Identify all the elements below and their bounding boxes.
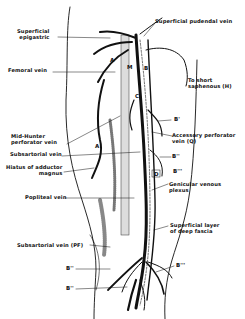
letter-marker: B''' (173, 168, 182, 174)
label-subsartorial-vein-pf: Subsartorial vein (PF) (17, 243, 83, 249)
label-line: of deep fascia (170, 229, 219, 235)
letter-marker: B'' (172, 153, 180, 159)
letter-marker: B (144, 65, 148, 71)
label-line: vein (Q) (172, 139, 235, 145)
label-line: saphenous (H) (188, 84, 232, 90)
label-superficial-pudendal: Superficial pudendal vein (155, 19, 232, 25)
label-line: Popliteal vein (25, 195, 67, 201)
anatomical-figure: Superficial epigastric Femoral vein Mid-… (0, 0, 245, 319)
label-genicular-plexus: Genicular venous plexus (169, 182, 221, 193)
label-to-short-saphenous: To short saphenous (H) (188, 78, 232, 89)
label-superficial-layer-deep-fascia: Superficial layer of deep fascia (170, 223, 219, 234)
letter-marker: M (127, 64, 132, 70)
letter-marker: D (154, 171, 159, 177)
label-line: Subsartorial vein (PF) (17, 243, 83, 249)
letter-marker: B''' (176, 262, 185, 268)
label-line: Superficial pudendal vein (155, 19, 232, 25)
label-line: plexus (169, 188, 221, 194)
label-hiatus-adductor-magnus: Hiatus of adductor magnus (6, 165, 62, 176)
label-line: Femoral vein (8, 68, 47, 74)
label-femoral-vein: Femoral vein (8, 68, 47, 74)
label-line: magnus (6, 171, 62, 177)
label-superficial-epigastric: Superficial epigastric (17, 29, 50, 40)
leg-vein-drawing (0, 0, 245, 319)
label-popliteal-vein: Popliteal vein (25, 195, 67, 201)
letter-marker: A (95, 143, 99, 149)
label-subsartorial-vein: Subsartorial vein (10, 152, 62, 158)
letter-marker: B'' (66, 265, 74, 271)
label-line: epigastric (17, 35, 50, 41)
letter-marker: B' (174, 116, 180, 122)
letter-marker: B'' (66, 285, 74, 291)
label-mid-hunter-perforator: Mid-Hunter perforator vein (11, 134, 57, 145)
label-line: perforator vein (11, 140, 57, 146)
letter-marker: A (110, 57, 114, 63)
label-line: Subsartorial vein (10, 152, 62, 158)
label-accessory-perforator: Accessory perforator vein (Q) (172, 133, 235, 144)
letter-marker: C (135, 93, 139, 99)
